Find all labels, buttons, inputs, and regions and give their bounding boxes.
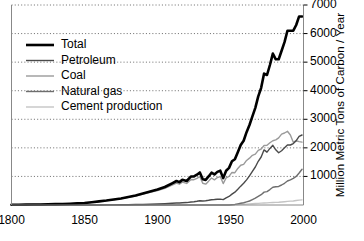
legend-label-cement-production: Cement production bbox=[61, 99, 162, 113]
axis-ticks bbox=[304, 5, 308, 176]
series-line-natural-gas bbox=[12, 169, 303, 205]
legend-label-natural-gas: Natural gas bbox=[61, 84, 122, 98]
emissions-chart-figure: 18001850190019502000 1000200030004000500… bbox=[0, 0, 364, 241]
y-axis-title-text: Million Metric Tons of Carbon / Year bbox=[334, 13, 346, 197]
legend-label-petroleum: Petroleum bbox=[61, 53, 116, 67]
x-tick-label: 1800 bbox=[0, 213, 37, 227]
x-tick-label: 1950 bbox=[206, 213, 256, 227]
x-tick-label: 1900 bbox=[133, 213, 183, 227]
legend-swatches bbox=[26, 45, 54, 107]
series-line-coal bbox=[12, 131, 303, 204]
legend-label-coal: Coal bbox=[61, 68, 86, 82]
x-tick-label: 1850 bbox=[60, 213, 110, 227]
y-axis-title: Million Metric Tons of Carbon / Year bbox=[331, 0, 349, 210]
series-line-petroleum bbox=[12, 135, 303, 205]
x-tick-label: 2000 bbox=[279, 213, 329, 227]
legend-label-total: Total bbox=[61, 37, 86, 51]
